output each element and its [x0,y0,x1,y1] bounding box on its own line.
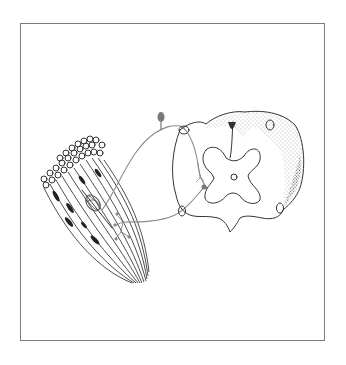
dorsal-root-ganglion [158,112,209,188]
central-canal [231,174,237,180]
motor-neuron-soma [196,163,207,190]
sensory-afferent-fiber [102,126,180,210]
spinal-cord-cross-section [173,111,304,232]
reflex-arc-diagram [0,0,346,365]
muscle-spindle [82,190,112,228]
